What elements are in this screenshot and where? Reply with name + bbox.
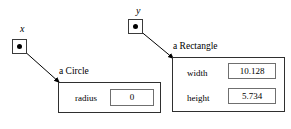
filled-dot-icon — [17, 44, 22, 49]
object-box-rectangle[interactable]: width 10.128 height 5.734 — [172, 57, 285, 112]
object-title-circle: a Circle — [59, 66, 89, 76]
reference-cell-x[interactable] — [12, 39, 27, 54]
arrow-y-to-rectangle — [139, 30, 174, 59]
reference-label-y: y — [136, 6, 140, 16]
object-diagram-canvas: x y a Circle radius 0 a Rectangle width … — [0, 0, 291, 129]
object-box-circle[interactable]: radius 0 — [58, 82, 161, 113]
reference-label-x: x — [20, 24, 24, 34]
object-title-rectangle: a Rectangle — [173, 41, 218, 51]
field-value-height[interactable]: 5.734 — [228, 88, 276, 104]
field-label-height: height — [187, 94, 210, 103]
filled-dot-icon — [133, 24, 138, 29]
arrow-x-to-circle — [23, 50, 60, 83]
field-value-radius[interactable]: 0 — [110, 89, 154, 106]
field-label-radius: radius — [75, 94, 97, 103]
field-label-width: width — [187, 69, 208, 78]
field-value-width[interactable]: 10.128 — [228, 63, 276, 79]
reference-cell-y[interactable] — [128, 19, 143, 34]
